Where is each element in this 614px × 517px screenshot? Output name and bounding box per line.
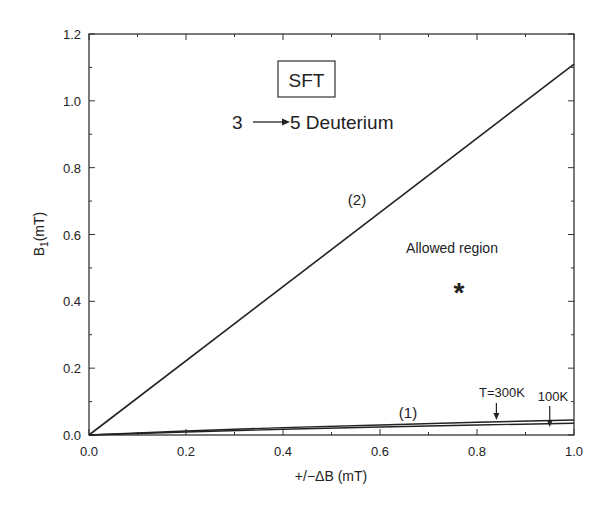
temp-300k-label: T=300K [479, 385, 525, 400]
x-tick-label: 0.6 [371, 444, 389, 459]
temp-300k-arrow-icon [493, 403, 499, 420]
transition-to-label: 5 Deuterium [290, 112, 394, 133]
transition-arrow-icon [253, 119, 290, 126]
x-axis-title: +/−ΔB (mT) [295, 468, 367, 484]
line2-label: (2) [348, 191, 366, 208]
x-tick-label: 1.0 [565, 444, 583, 459]
plot-frame [89, 34, 574, 435]
line1-label: (1) [399, 404, 417, 421]
x-tick-label: 0.4 [274, 444, 292, 459]
y-axis-title-main: B [31, 247, 47, 256]
x-tick-label: 0.2 [177, 444, 195, 459]
y-tick-label: 0.2 [63, 361, 81, 376]
x-axis-ticks [89, 34, 574, 435]
y-tick-label: 0.8 [63, 161, 81, 176]
x-tick-label: 0.8 [468, 444, 486, 459]
temp-100k-label: 100K [538, 389, 569, 404]
star-marker-icon: * [454, 277, 465, 308]
y-axis-title: B1(mT) [31, 212, 50, 256]
y-axis-ticks [89, 34, 574, 435]
chart: 0.00.20.40.60.81.0 0.00.20.40.60.81.01.2… [0, 0, 614, 517]
x-axis-tick-labels: 0.00.20.40.60.81.0 [80, 444, 583, 459]
y-tick-label: 0.4 [63, 294, 81, 309]
y-tick-label: 0.0 [63, 428, 81, 443]
x-tick-label: 0.0 [80, 444, 98, 459]
y-tick-label: 0.6 [63, 228, 81, 243]
y-axis-title-unit: (mT) [31, 212, 47, 242]
y-axis-tick-labels: 0.00.20.40.60.81.01.2 [63, 27, 81, 443]
sft-label: SFT [289, 70, 325, 91]
y-tick-label: 1.0 [63, 94, 81, 109]
svg-text:B1(mT): B1(mT) [31, 212, 50, 256]
allowed-region-label: Allowed region [406, 240, 498, 256]
y-tick-label: 1.2 [63, 27, 81, 42]
transition-from-label: 3 [232, 112, 243, 133]
